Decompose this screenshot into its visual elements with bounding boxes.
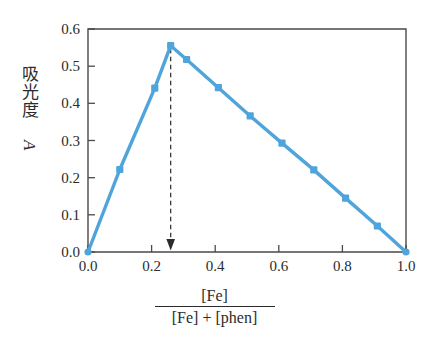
y-tick-label-4: 0.4 — [38, 95, 80, 112]
y-axis-title: 吸光度 A — [14, 65, 44, 150]
x-tick-label-2: 0.4 — [206, 258, 225, 275]
data-point — [278, 140, 285, 147]
y-tick-label-3: 0.3 — [38, 132, 80, 149]
data-point — [116, 166, 123, 173]
job-plot-figure: 0.0 0.1 0.2 0.3 0.4 0.5 0.6 0.0 0.2 0.4 … — [0, 0, 429, 351]
x-tick-label-4: 0.8 — [333, 258, 352, 275]
x-axis-fraction: [Fe] [Fe] + [phen] — [155, 287, 275, 327]
data-point — [247, 112, 254, 119]
data-point — [402, 248, 409, 255]
y-tick-label-0: 0.0 — [38, 244, 80, 261]
x-tick-label-3: 0.6 — [269, 258, 288, 275]
peak-indicator-arrow — [166, 49, 175, 251]
x-tick-label-0: 0.0 — [79, 258, 98, 275]
data-point — [183, 56, 190, 63]
data-point — [310, 166, 317, 173]
data-point — [151, 85, 158, 92]
axis-frame — [88, 29, 406, 252]
y-axis-ticks — [88, 29, 95, 252]
y-tick-label-5: 0.5 — [38, 58, 80, 75]
series-absorbance — [88, 46, 406, 252]
data-point — [342, 195, 349, 202]
x-tick-label-5: 1.0 — [397, 258, 416, 275]
y-axis-title-symbol: A — [20, 140, 39, 150]
x-axis-ticks — [88, 245, 406, 252]
x-axis-title: [Fe] [Fe] + [phen] — [0, 287, 429, 327]
x-tick-label-1: 0.2 — [142, 258, 161, 275]
fraction-denominator: [Fe] + [phen] — [168, 307, 261, 327]
y-tick-label-6: 0.6 — [38, 21, 80, 38]
data-point — [374, 222, 381, 229]
series-markers — [84, 42, 409, 255]
data-point — [167, 42, 174, 49]
y-tick-label-2: 0.2 — [38, 169, 80, 186]
data-point — [84, 248, 91, 255]
fraction-numerator: [Fe] — [195, 287, 234, 306]
y-axis-title-text: 吸光度 — [19, 65, 39, 119]
data-point — [215, 84, 222, 91]
y-tick-label-1: 0.1 — [38, 206, 80, 223]
